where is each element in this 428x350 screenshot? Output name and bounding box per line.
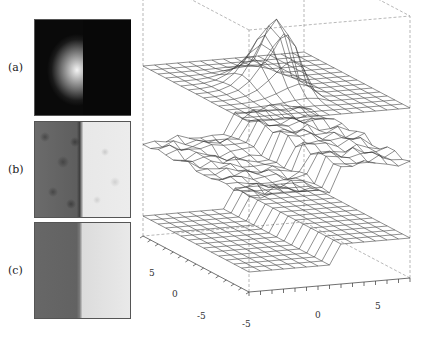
x-tick-5: 5 (375, 301, 381, 311)
y-tick-5: 5 (149, 268, 155, 278)
y-tick-0: 0 (172, 289, 178, 299)
surface-plot-3d: -505-505 (0, 0, 428, 350)
x-tick-0: 0 (315, 310, 321, 320)
x-tick-neg5: -5 (242, 319, 251, 329)
y-tick-neg5: -5 (197, 311, 206, 321)
